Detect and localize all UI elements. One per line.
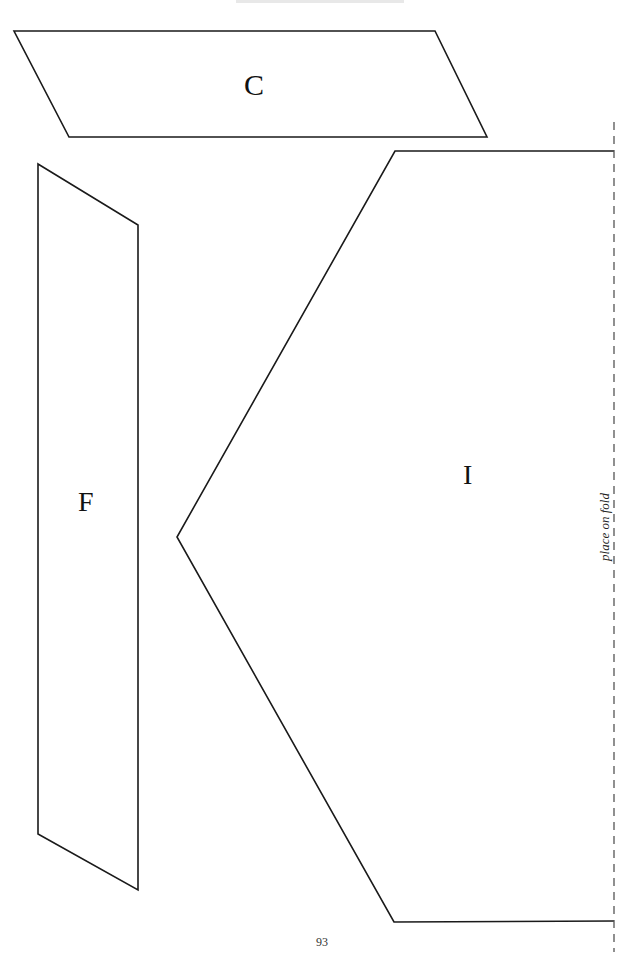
pattern-page: C F I place on fold 93	[0, 0, 640, 957]
pattern-piece-f-outline	[38, 164, 138, 890]
piece-label-i: I	[463, 461, 472, 489]
piece-label-c: C	[244, 70, 264, 100]
pattern-piece-i-outline	[177, 151, 614, 922]
piece-label-f: F	[78, 488, 94, 516]
fold-line-label: place on fold	[597, 493, 613, 561]
pattern-pieces-canvas	[0, 0, 640, 957]
page-number: 93	[316, 935, 328, 950]
